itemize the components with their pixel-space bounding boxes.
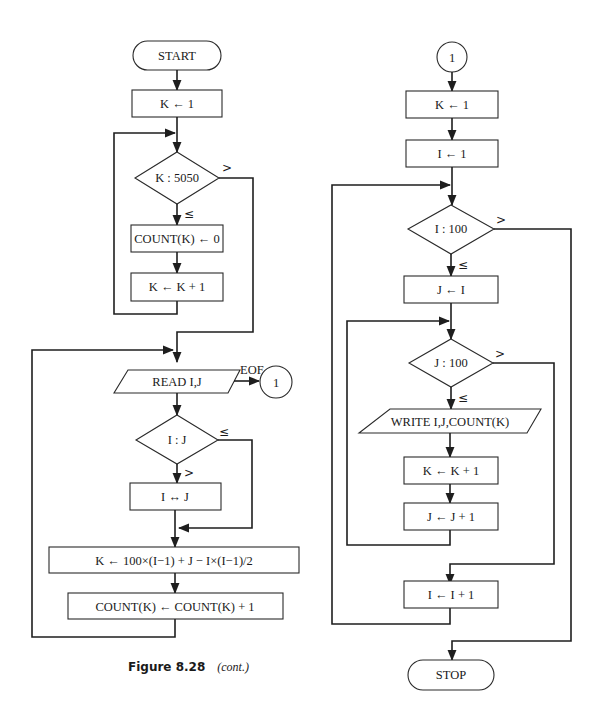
i-test-gt-label: > [496, 213, 506, 227]
ij-test-gt-label: > [184, 466, 194, 480]
right-flow: 1 K ← 1 I ← 1 I : 100 > ≤ J ← I J : 100 … [332, 42, 571, 690]
count-zero-label: COUNT(K) ← 0 [134, 232, 219, 246]
write-label: WRITE I,J,COUNT(K) [391, 415, 509, 429]
figure-note: (cont.) [217, 660, 249, 674]
i-init-label: I ← 1 [437, 147, 466, 161]
stop-label: STOP [436, 668, 466, 682]
connector-1-out-label: 1 [273, 376, 279, 390]
ij-test-label: I : J [168, 433, 187, 447]
k-test-le-label: ≤ [184, 207, 194, 221]
r-k-inc-label: K ← K + 1 [423, 464, 479, 478]
j-init-label: J ← I [437, 283, 465, 297]
start-label: START [158, 49, 196, 63]
k-compute-label: K ← 100×(I−1) + J − I×(I−1)/2 [95, 554, 253, 568]
figure-number: Figure 8.28 [128, 660, 205, 674]
j-inc-label: J ← J + 1 [427, 510, 475, 524]
k-test-label: K : 5050 [155, 171, 199, 185]
i-inc-label: I ← I + 1 [428, 588, 475, 602]
r-k-init-label: K ← 1 [435, 98, 469, 112]
k-test-gt-label: > [222, 161, 232, 175]
swap-label: I ↔ J [161, 490, 189, 504]
i-test-label: I : 100 [435, 222, 468, 236]
k-test-exit-line [177, 178, 253, 362]
j-test-gt-label: > [495, 347, 505, 361]
i-loop-back-line [332, 185, 450, 624]
connector-1-in-label: 1 [449, 51, 455, 65]
i-test-le-label: ≤ [458, 258, 468, 272]
count-inc-label: COUNT(K) ← COUNT(K) + 1 [95, 600, 254, 614]
j-test-le-label: ≤ [458, 391, 468, 405]
eof-label: EOF [240, 363, 264, 377]
k-init-label: K ← 1 [160, 97, 194, 111]
read-label: READ I,J [152, 375, 201, 389]
k-inc-label: K ← K + 1 [149, 280, 205, 294]
ij-test-le-label: ≤ [219, 425, 229, 439]
left-flow: START K ← 1 K : 5050 > ≤ COUNT(K) ← 0 K … [32, 41, 299, 637]
figure-caption: Figure 8.28(cont.) [128, 660, 249, 675]
j-test-label: J : 100 [434, 356, 467, 370]
flowchart-canvas: START K ← 1 K : 5050 > ≤ COUNT(K) ← 0 K … [0, 0, 602, 723]
